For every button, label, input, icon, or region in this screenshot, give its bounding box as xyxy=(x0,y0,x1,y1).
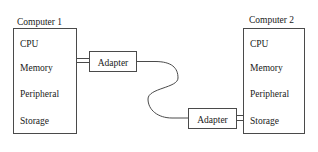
computer-2-component-cpu: CPU xyxy=(250,39,269,49)
adapter-1-label: Adapter xyxy=(98,58,129,68)
link-adapter2-computer2 xyxy=(237,116,244,121)
computer-1-title: Computer 1 xyxy=(17,17,62,27)
cable-adapter1-adapter2 xyxy=(137,62,189,119)
computer-1-component-memory: Memory xyxy=(20,63,53,73)
computer-2-component-storage: Storage xyxy=(250,116,279,126)
computer-1-component-storage: Storage xyxy=(20,116,49,126)
diagram-canvas: Computer 1 CPU Memory Peripheral Storage… xyxy=(0,0,318,152)
computer-2-component-peripheral: Peripheral xyxy=(250,89,289,99)
computer-2-title: Computer 2 xyxy=(249,15,294,25)
link-computer1-adapter1 xyxy=(77,59,90,63)
computer-2-component-memory: Memory xyxy=(250,63,283,73)
computer-1-component-peripheral: Peripheral xyxy=(20,89,59,99)
computer-1-component-cpu: CPU xyxy=(20,39,39,49)
network-adapter-diagram: Computer 1 CPU Memory Peripheral Storage… xyxy=(0,0,318,152)
adapter-2-label: Adapter xyxy=(197,115,228,125)
